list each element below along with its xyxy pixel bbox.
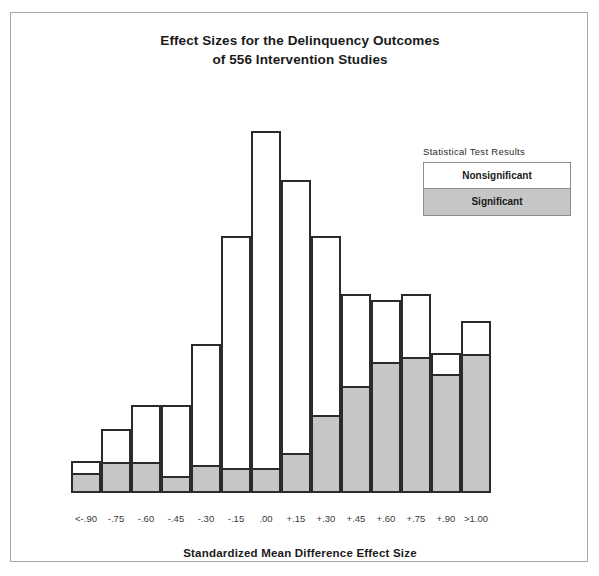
- x-tick-label: .00: [251, 513, 281, 524]
- bar-segment-significant: [433, 374, 459, 491]
- bar-segment-significant: [403, 357, 429, 491]
- bar-segment-significant: [223, 468, 249, 491]
- bar-segment-significant: [313, 415, 339, 491]
- histogram-bar: [221, 236, 251, 493]
- bar-segment-significant: [463, 354, 489, 491]
- histogram-bar: [131, 405, 161, 493]
- bar-segment-significant: [193, 465, 219, 491]
- x-tick-label: +.15: [281, 513, 311, 524]
- legend-box: Nonsignificant Significant: [423, 162, 571, 216]
- histogram-bar: [371, 300, 401, 493]
- chart-title: Effect Sizes for the Delinquency Outcome…: [11, 31, 589, 69]
- histogram-bar: [101, 429, 131, 493]
- bar-segment-significant: [343, 386, 369, 491]
- histogram-bar: [281, 180, 311, 493]
- bar-segment-significant: [163, 476, 189, 491]
- bar-segment-significant: [283, 453, 309, 491]
- x-tick-label: -.75: [101, 513, 131, 524]
- x-tick-label: +.60: [371, 513, 401, 524]
- legend-title: Statistical Test Results: [423, 146, 573, 157]
- histogram-bar: [71, 461, 101, 493]
- x-tick-label: -.15: [221, 513, 251, 524]
- histogram-bar: [251, 131, 281, 493]
- x-tick-label: +.90: [431, 513, 461, 524]
- bar-segment-significant: [373, 362, 399, 491]
- histogram-bar: [461, 321, 491, 493]
- x-tick-label: -.60: [131, 513, 161, 524]
- x-tick-label: -.45: [161, 513, 191, 524]
- x-tick-label: <-.90: [71, 513, 101, 524]
- histogram-bar: [311, 236, 341, 493]
- x-tick-label: -.30: [191, 513, 221, 524]
- x-tick-label: +.45: [341, 513, 371, 524]
- chart-title-line-2: of 556 Intervention Studies: [11, 50, 589, 69]
- bar-segment-significant: [73, 473, 99, 491]
- x-axis-tick-labels: <-.90-.75-.60-.45-.30-.15.00+.15+.30+.45…: [71, 513, 501, 529]
- x-tick-label: >1.00: [461, 513, 491, 524]
- chart-frame: Effect Sizes for the Delinquency Outcome…: [10, 12, 588, 562]
- histogram-bar: [191, 344, 221, 493]
- bar-segment-significant: [253, 468, 279, 491]
- bar-segment-significant: [103, 462, 129, 491]
- histogram-bar: [161, 405, 191, 493]
- chart-title-line-1: Effect Sizes for the Delinquency Outcome…: [11, 31, 589, 50]
- legend-item-nonsignificant[interactable]: Nonsignificant: [424, 163, 570, 189]
- legend: Statistical Test Results Nonsignificant …: [423, 146, 573, 216]
- x-axis-title: Standardized Mean Difference Effect Size: [11, 547, 589, 559]
- histogram-bar: [431, 353, 461, 493]
- x-tick-label: +.75: [401, 513, 431, 524]
- legend-item-significant[interactable]: Significant: [424, 189, 570, 215]
- x-tick-label: +.30: [311, 513, 341, 524]
- bar-segment-significant: [133, 462, 159, 491]
- histogram-bar: [341, 294, 371, 493]
- histogram-bar: [401, 294, 431, 493]
